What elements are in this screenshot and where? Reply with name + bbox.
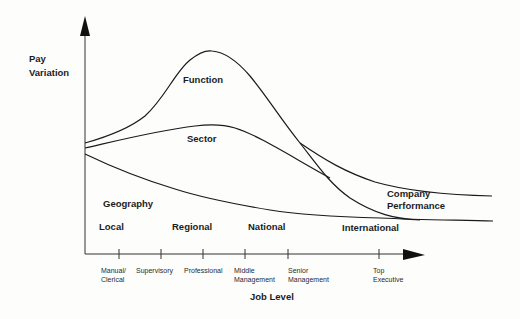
y-axis-label-line1: Pay (29, 54, 46, 64)
function-label: Function (183, 75, 223, 85)
tick-label-senior-management: Senior Management (288, 266, 329, 284)
x-axis-label: Job Level (250, 292, 294, 302)
x-axis-arrow-icon (403, 249, 425, 260)
geography-national: National (248, 222, 285, 232)
tick-line2: Clerical (101, 275, 126, 284)
geography-local: Local (99, 222, 124, 232)
tick-line1: Senior (288, 266, 329, 275)
company-performance-label-line2: Performance (387, 201, 445, 211)
geography-label: Geography (103, 199, 153, 209)
geography-regional: Regional (172, 222, 212, 232)
tick-line1: Supervisory (136, 266, 173, 275)
tick-label-supervisory: Supervisory (136, 266, 173, 275)
tick-line2: Management (288, 275, 329, 284)
tick-line1: Professional (184, 266, 223, 275)
company-performance-label-line1: Company (387, 189, 430, 199)
geography-international: International (342, 223, 399, 233)
y-axis-arrow-icon (80, 16, 90, 36)
sector-label: Sector (187, 134, 217, 144)
tick-label-middle-management: Middle Management (234, 266, 275, 284)
tick-line1: Middle (234, 266, 275, 275)
tick-label-manual-clerical: Manual/ Clerical (101, 266, 126, 284)
tick-line2: Management (234, 275, 275, 284)
tick-label-top-executive: Top Executive (373, 266, 403, 284)
tick-line2: Executive (373, 275, 403, 284)
tick-line1: Manual/ (101, 266, 126, 275)
pay-variation-diagram: Pay Variation Function Sector Geography … (0, 0, 520, 319)
tick-label-professional: Professional (184, 266, 223, 275)
y-axis-label-line2: Variation (29, 68, 69, 78)
tick-line1: Top (373, 266, 403, 275)
